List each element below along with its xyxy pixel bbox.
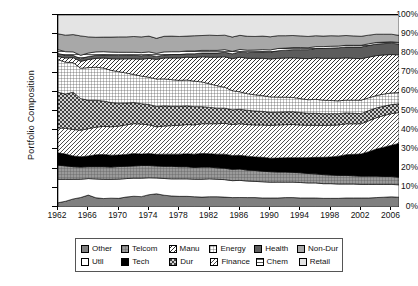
legend-item-finance[interactable]: Finance	[210, 258, 255, 266]
legend-swatch-icon	[209, 245, 217, 253]
legend-label: Tech	[132, 258, 149, 266]
legend-item-non-dur[interactable]: Non-Dur	[297, 245, 337, 253]
legend-label: Chem	[267, 258, 288, 266]
legend-row-1: Other Telcom	[81, 242, 337, 255]
legend-label: Dur	[180, 258, 193, 266]
chart-legend: Other Telcom	[75, 238, 343, 272]
x-tick-label: 1970	[101, 210, 135, 220]
legend-item-energy[interactable]: Energy	[209, 245, 254, 253]
x-tick-label: 1986	[222, 210, 256, 220]
legend-item-utll[interactable]: Utll	[81, 258, 121, 266]
x-tick-label: 2002	[343, 210, 377, 220]
x-tick-label: 1990	[252, 210, 286, 220]
legend-item-health[interactable]: Health	[254, 245, 297, 253]
legend-label: Health	[265, 245, 288, 253]
x-tick-label: 1982	[192, 210, 226, 220]
legend-item-other[interactable]: Other	[81, 245, 121, 253]
x-tick-label: 1994	[282, 210, 316, 220]
legend-swatch-icon	[121, 258, 129, 266]
legend-swatch-icon	[297, 245, 305, 253]
legend-swatch-icon	[256, 258, 264, 266]
legend-label: Finance	[221, 258, 249, 266]
legend-label: Retail	[310, 258, 330, 266]
area-series-retail	[58, 15, 399, 38]
x-tick-label: 2006	[373, 210, 407, 220]
portfolio-composition-chart: Portfolio Composition 100%90%80%70%60%50…	[0, 0, 418, 286]
legend-swatch-icon	[254, 245, 262, 253]
legend-item-tech[interactable]: Tech	[121, 258, 169, 266]
x-tick-label: 1966	[70, 210, 104, 220]
stacked-area-series	[58, 15, 397, 205]
legend-label: Other	[92, 245, 112, 253]
legend-label: Telcom	[132, 245, 157, 253]
legend-item-chem[interactable]: Chem	[256, 258, 299, 266]
legend-label: Energy	[220, 245, 245, 253]
x-tick-label: 1962	[40, 210, 74, 220]
legend-swatch-icon	[169, 258, 177, 266]
x-tick-label: 1998	[313, 210, 347, 220]
plot-area	[57, 14, 398, 206]
legend-swatch-icon	[210, 258, 218, 266]
x-tick-label: 1974	[131, 210, 165, 220]
legend-swatch-icon	[299, 258, 307, 266]
legend-swatch-icon	[81, 258, 89, 266]
legend-row-2: Utll Tech	[81, 255, 337, 268]
legend-swatch-icon	[121, 245, 129, 253]
legend-item-dur[interactable]: Dur	[169, 258, 210, 266]
legend-swatch-icon	[169, 245, 177, 253]
legend-label: Non-Dur	[308, 245, 338, 253]
legend-label: Utll	[92, 258, 104, 266]
y-axis-title: Portfolio Composition	[26, 30, 36, 200]
legend-item-manu[interactable]: Manu	[169, 245, 210, 253]
legend-swatch-icon	[81, 245, 89, 253]
legend-item-telcom[interactable]: Telcom	[121, 245, 169, 253]
legend-item-retail[interactable]: Retail	[299, 258, 337, 266]
x-tick-label: 1978	[161, 210, 195, 220]
legend-label: Manu	[180, 245, 200, 253]
